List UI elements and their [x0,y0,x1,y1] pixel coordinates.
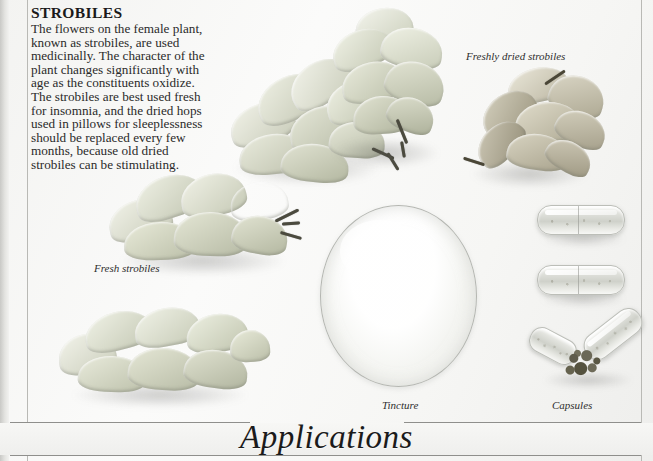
page-title: STROBILES [31,5,213,21]
page-gutter [0,0,9,461]
caption-capsules: Capsules [552,399,592,411]
right-vertical-rule [641,0,642,461]
specimen-freshly-dried-strobile [455,68,610,183]
text-block: STROBILES The flowers on the female plan… [31,5,213,172]
capsule-contents [543,217,619,229]
caption-fresh-strobiles: Fresh strobiles [94,262,160,274]
specimen-fresh-strobile-bottom [58,300,268,400]
caption-tincture: Tincture [382,399,418,411]
footer-rule-bottom [10,455,641,456]
capsule-band [545,270,617,275]
capsule-band [545,210,617,215]
section-title-applications: Applications [0,419,653,456]
left-vertical-rule [27,0,28,461]
specimen-capsule-powder [560,345,606,383]
specimen-fresh-strobile-upper [325,8,460,163]
specimen-fresh-strobile-midleft [108,160,308,270]
book-page: STROBILES The flowers on the female plan… [0,0,653,461]
body-text: The flowers on the female plant, known a… [31,22,213,172]
caption-freshly-dried-strobiles: Freshly dried strobiles [466,50,565,62]
capsule-contents [543,277,619,289]
specimen-capsule-2 [537,265,625,295]
tincture-sheen [340,220,421,281]
specimen-tincture-dish [320,205,477,387]
specimen-capsule-1 [537,205,625,235]
